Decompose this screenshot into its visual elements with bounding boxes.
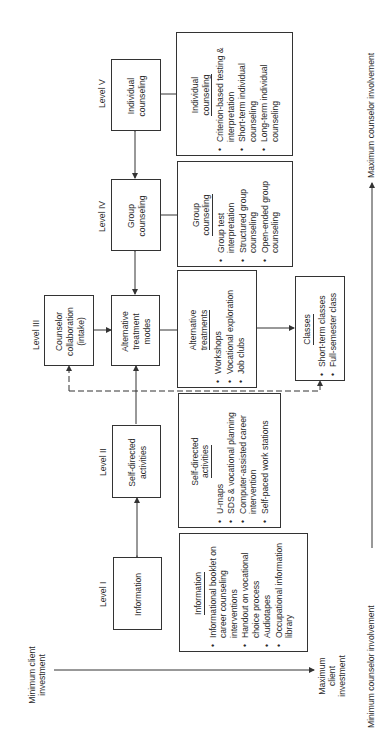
group-title-2: counseling (201, 194, 213, 235)
alternative-treatments-detail: Alternativetreatments Workshops Vocation… (177, 270, 257, 388)
list-item: Long-term individual counseling (259, 39, 280, 151)
level-1-label: Level I (98, 582, 108, 607)
level-4-box: Group counseling (111, 179, 161, 251)
list-item: Occupational information library (274, 540, 295, 647)
max-client-investment-label: Maximum client investment (316, 647, 348, 705)
classes-title: Classes (302, 314, 314, 345)
list-item: Open-ended group counseling (260, 168, 281, 262)
level-4-text: Group counseling (112, 180, 162, 252)
min-counselor-involvement-label: Minimum counselor involvement (366, 605, 376, 728)
list-item: Structured group counseling (238, 168, 259, 262)
level-5-label: Level V (97, 79, 107, 108)
list-item: Informational booklet on career counseli… (208, 540, 240, 647)
level-4-label: Level IV (97, 201, 107, 232)
list-item: Self-paced work stations (260, 400, 271, 523)
alternative-title-2: treatments (199, 310, 211, 351)
level-3-text: Counselor collaboration (intake) (45, 296, 95, 367)
list-item: Computer-assisted career intervention (238, 400, 259, 523)
group-title-1: Group (191, 203, 201, 227)
level-5-box: Individual counseling (111, 59, 161, 131)
level-1-text: Information (114, 558, 163, 631)
list-item: SDS & vocational planning (226, 400, 237, 523)
information-title: Information (193, 572, 205, 615)
individual-counseling-detail: Individualcounseling Criterion-based tes… (176, 32, 293, 156)
level-2-label: Level II (98, 448, 108, 476)
level-1-box: Information (113, 557, 162, 630)
list-item: U-maps (215, 400, 226, 523)
group-list: Group test interpretation Structured gro… (216, 168, 282, 262)
level-2-text: Self-directed activities (113, 426, 162, 499)
individual-title-1: Individual (190, 77, 200, 113)
level-3-box: Counselor collaboration (intake) (44, 295, 94, 366)
list-item: Job clubs (236, 277, 247, 383)
list-item: Vocational exploration (225, 277, 236, 383)
level-3-label: Level III (31, 320, 41, 350)
list-item: Workshops (213, 277, 224, 383)
list-item: Audiotapes (262, 540, 273, 647)
information-detail: Information Informational booklet on car… (179, 533, 308, 652)
self-directed-title-2: activities (200, 445, 212, 478)
level-2-box: Self-directed activities (112, 425, 161, 498)
list-item: Full-semester class (328, 283, 339, 376)
individual-title-2: counseling (201, 74, 213, 115)
alternative-list: Workshops Vocational exploration Job clu… (213, 277, 248, 383)
self-directed-detail: Self-directedactivities U-maps SDS & voc… (178, 393, 281, 528)
self-directed-title-1: Self-directed (190, 437, 200, 485)
list-item: Short-term individual counseling (237, 39, 258, 151)
group-counseling-detail: Groupcounseling Group test interpretatio… (177, 161, 293, 267)
max-counselor-involvement-label: Maximum counselor involvement (366, 53, 376, 178)
alternative-modes-box: Alternative treatment modes (111, 295, 160, 366)
classes-detail: Classes Short-term classes Full-semester… (295, 276, 345, 381)
min-client-investment-label: Minimum client investment (21, 646, 53, 704)
list-item: Criterion-based testing & interpretation (215, 39, 236, 151)
individual-list: Criterion-based testing & interpretation… (215, 39, 281, 151)
classes-list: Short-term classes Full-semester class (317, 283, 340, 376)
alternative-title-1: Alternative (188, 310, 198, 351)
list-item: Handout on vocational choice process (240, 540, 261, 647)
list-item: Group test interpretation (216, 168, 237, 262)
information-list: Informational booklet on career counseli… (208, 540, 296, 647)
alternative-modes-text: Alternative treatment modes (112, 296, 161, 367)
self-directed-list: U-maps SDS & vocational planning Compute… (215, 400, 272, 523)
list-item: Short-term classes (317, 283, 328, 376)
level-5-text: Individual counseling (112, 60, 162, 132)
